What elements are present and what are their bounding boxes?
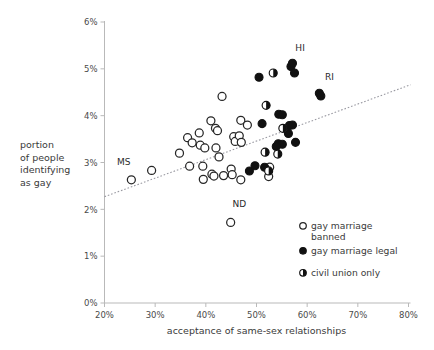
- axis-titles-layer: acceptance of same-sex relationshipsport…: [20, 139, 346, 336]
- data-point-filled: [288, 59, 296, 67]
- data-point-open: [195, 129, 203, 137]
- data-point-open: [207, 117, 215, 125]
- data-point-filled: [291, 69, 299, 77]
- x-tick-label: 50%: [247, 310, 266, 320]
- data-points-layer: [127, 59, 324, 226]
- point-label-hi: HI: [295, 43, 304, 53]
- point-label-nd: ND: [232, 199, 246, 209]
- data-point-filled: [292, 138, 300, 146]
- point-label-ri: RI: [325, 72, 334, 82]
- data-point-open: [148, 166, 156, 174]
- legend-item-label: civil union only: [311, 267, 381, 278]
- scatter-chart: 0%1%2%3%4%5%6%20%30%40%50%60%70%80% HIRI…: [0, 0, 434, 350]
- series-gay-marriage-banned: [127, 92, 273, 226]
- data-point-open: [210, 172, 218, 180]
- x-tick-label: 40%: [196, 310, 215, 320]
- legend: gay marriagebannedgay marriage legalcivi…: [300, 220, 398, 278]
- data-point-half: [269, 69, 277, 77]
- x-tick-label: 20%: [95, 310, 114, 320]
- y-tick-label: 2%: [84, 205, 98, 215]
- x-tick-label: 30%: [146, 310, 165, 320]
- point-annotations-layer: HIRIMSND: [117, 43, 334, 209]
- trendline: [105, 85, 411, 197]
- x-axis-title: acceptance of same-sex relationships: [167, 325, 346, 336]
- data-point-open: [127, 176, 135, 184]
- data-point-open: [220, 172, 228, 180]
- legend-marker-open: [300, 223, 307, 230]
- data-point-filled: [272, 143, 280, 151]
- data-point-open: [188, 139, 196, 147]
- y-tick-label: 3%: [84, 158, 98, 168]
- y-tick-label: 5%: [84, 64, 98, 74]
- data-point-open: [228, 171, 236, 179]
- data-point-open: [175, 149, 183, 157]
- data-point-half: [261, 148, 269, 156]
- y-axis-title-line: of people: [20, 152, 65, 163]
- data-point-open: [237, 176, 245, 184]
- data-point-half: [265, 167, 273, 175]
- x-tick-label: 80%: [399, 310, 418, 320]
- data-point-filled: [278, 111, 286, 119]
- series-gay-marriage-legal: [245, 59, 324, 175]
- point-label-ms: MS: [117, 157, 131, 167]
- data-point-filled: [317, 92, 325, 100]
- y-tick-label: 4%: [84, 111, 98, 121]
- y-axis-title-line: portion: [20, 139, 54, 150]
- data-point-half: [262, 101, 270, 109]
- chart-canvas: 0%1%2%3%4%5%6%20%30%40%50%60%70%80% HIRI…: [0, 0, 434, 350]
- data-point-open: [237, 138, 245, 146]
- data-point-open: [199, 162, 207, 170]
- y-tick-label: 1%: [84, 251, 98, 261]
- y-tick-label: 0%: [84, 298, 98, 308]
- data-point-half: [274, 150, 282, 158]
- legend-item-label: banned: [311, 231, 346, 242]
- data-point-filled: [255, 73, 263, 81]
- data-point-filled: [251, 162, 259, 170]
- data-point-open: [212, 144, 220, 152]
- x-tick-label: 60%: [298, 310, 317, 320]
- legend-item-label: gay marriage legal: [311, 245, 398, 256]
- data-point-open: [243, 121, 251, 129]
- data-point-open: [218, 92, 226, 100]
- data-point-open: [227, 218, 235, 226]
- x-tick-label: 70%: [348, 310, 367, 320]
- y-axis-title-line: identifying: [20, 164, 70, 175]
- y-axis-title-line: as gay: [20, 177, 52, 188]
- data-point-open: [213, 127, 221, 135]
- data-point-filled: [258, 120, 266, 128]
- trendline-layer: [105, 85, 411, 197]
- data-point-open: [186, 162, 194, 170]
- data-point-open: [201, 144, 209, 152]
- data-point-filled: [288, 121, 296, 129]
- data-point-open: [215, 153, 223, 161]
- legend-item-label: gay marriage: [311, 220, 373, 231]
- y-tick-label: 6%: [84, 17, 98, 27]
- legend-marker-filled: [300, 248, 307, 255]
- data-point-half: [279, 124, 287, 132]
- data-point-open: [199, 175, 207, 183]
